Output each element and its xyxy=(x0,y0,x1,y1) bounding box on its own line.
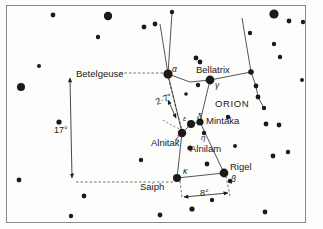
star-saiph xyxy=(173,174,181,182)
label-bellatrix: Bellatrix xyxy=(196,64,230,75)
label-orion: ORION xyxy=(215,98,249,109)
field-star xyxy=(210,198,214,202)
field-star xyxy=(96,35,100,39)
field-star xyxy=(104,12,112,20)
field-star xyxy=(264,122,269,127)
field-star xyxy=(269,9,278,18)
field-star xyxy=(37,64,41,68)
field-star xyxy=(153,22,158,27)
field-star xyxy=(278,55,282,59)
field-star xyxy=(248,69,254,75)
measurement-8-degrees: 8° xyxy=(200,188,209,198)
field-star xyxy=(271,154,276,159)
field-star xyxy=(248,31,252,35)
field-star xyxy=(254,84,259,89)
field-star xyxy=(256,95,261,100)
label-beta: β xyxy=(230,174,236,184)
field-star xyxy=(205,162,210,167)
star-rigel xyxy=(220,169,229,178)
field-star xyxy=(194,56,199,61)
field-star xyxy=(301,20,305,24)
field-star xyxy=(263,210,268,215)
measurement-17-degrees: 17° xyxy=(54,125,68,135)
field-star xyxy=(51,13,56,18)
label-delta: δ xyxy=(197,112,202,122)
field-star xyxy=(56,119,61,124)
field-star xyxy=(262,106,266,110)
label-betelgeuse: Betelgeuse xyxy=(76,68,124,79)
field-star xyxy=(142,25,147,30)
field-star xyxy=(287,19,292,24)
sky-canvas: Betelgeuse α Bellatrix γ ORION Mintaka δ… xyxy=(0,0,323,229)
field-star xyxy=(139,158,143,162)
field-star xyxy=(189,206,194,211)
field-star xyxy=(277,123,282,128)
field-star xyxy=(272,42,276,46)
label-alnilam: Alnilam xyxy=(190,143,221,154)
field-star xyxy=(158,213,163,218)
field-star xyxy=(233,144,237,148)
star-chart-figure: Betelgeuse α Bellatrix γ ORION Mintaka δ… xyxy=(0,0,323,229)
field-star xyxy=(196,83,200,87)
label-saiph: Saiph xyxy=(140,181,164,192)
field-star xyxy=(184,92,188,96)
field-star xyxy=(17,83,25,91)
star-alnilam xyxy=(187,120,195,128)
field-star xyxy=(300,78,304,82)
field-star xyxy=(69,214,73,218)
field-star xyxy=(286,150,290,154)
label-rigel: Rigel xyxy=(230,161,252,172)
field-star xyxy=(17,178,22,183)
field-star xyxy=(82,194,87,199)
field-star xyxy=(170,10,174,14)
label-eta: η xyxy=(201,133,206,142)
star-bellatrix xyxy=(206,76,215,85)
label-mintaka: Mintaka xyxy=(206,115,240,126)
